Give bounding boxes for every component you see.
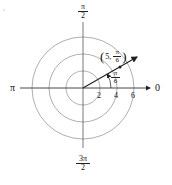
fraction-denominator: 6	[111, 78, 120, 85]
tick-label-6: 6	[131, 91, 135, 100]
axis-label-0: 0	[155, 82, 160, 93]
point-label-suffix: )	[122, 50, 126, 63]
fraction-denominator: 6	[113, 57, 121, 64]
axis-label-3pi-over-2: 3π 2	[76, 155, 90, 172]
fraction-denominator: 2	[78, 12, 88, 20]
point-comma: ,	[109, 52, 111, 61]
point-label-prefix: (	[100, 50, 104, 63]
tick-label-4: 4	[114, 91, 118, 100]
angle-label-pi-over-6: π 6	[111, 70, 120, 85]
fraction-denominator: 2	[76, 164, 90, 172]
point-label: ( 5 , π 6 )	[100, 49, 127, 64]
axis-label-pi: π	[10, 82, 15, 93]
tick-label-2: 2	[97, 91, 101, 100]
axis-label-pi-over-2: π 2	[78, 3, 88, 20]
point-theta: π 6	[113, 49, 121, 64]
